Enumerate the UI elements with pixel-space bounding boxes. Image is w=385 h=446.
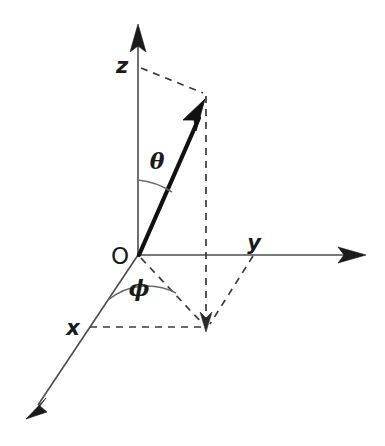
z-projection-guide bbox=[141, 68, 203, 93]
x-axis-line bbox=[38, 255, 138, 405]
x-axis-arrowhead bbox=[26, 398, 47, 419]
z-axis bbox=[130, 24, 146, 255]
spherical-coordinates-canvas: z y x O θ ϕ bbox=[0, 0, 385, 446]
y-projection-guide bbox=[210, 256, 253, 324]
origin-label: O bbox=[111, 243, 129, 269]
radius-vector-line bbox=[139, 118, 199, 255]
x-axis bbox=[26, 255, 138, 419]
x-axis-label: x bbox=[65, 316, 81, 340]
phi-angle-label: ϕ bbox=[129, 275, 150, 301]
theta-angle-label: θ bbox=[150, 148, 165, 174]
z-axis-label: z bbox=[115, 54, 129, 78]
vertical-drop-arrowhead bbox=[200, 312, 212, 332]
spherical-coordinates-diagram: z y x O θ ϕ bbox=[0, 0, 385, 446]
radius-vector bbox=[139, 99, 205, 255]
y-axis-label: y bbox=[247, 231, 262, 255]
